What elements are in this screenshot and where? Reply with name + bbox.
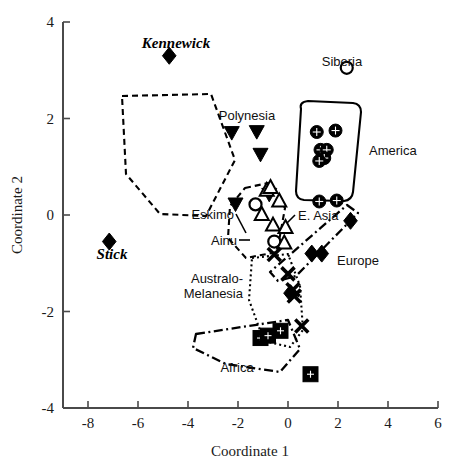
x-tick-label: -6 <box>132 415 145 431</box>
marker-polynesia <box>249 126 264 139</box>
marker-africa <box>303 367 318 382</box>
x-tick-label: 4 <box>384 415 392 431</box>
y-axis-title: Coordinate 2 <box>9 176 25 254</box>
marker-america <box>310 126 323 139</box>
marker-africa <box>273 323 288 338</box>
marker-america <box>313 154 326 167</box>
label-east-asia: E. Asia <box>298 208 339 223</box>
x-tick-label: -4 <box>182 415 195 431</box>
marker-eskimo <box>250 198 262 210</box>
cluster-hulls <box>122 94 361 372</box>
marker-europe <box>315 245 329 262</box>
label-africa: Africa <box>220 360 254 375</box>
label-melanesia: Melanesia <box>184 286 244 301</box>
axis-frame <box>63 22 438 408</box>
y-tick-label: 4 <box>47 14 55 30</box>
marker-america <box>313 195 326 208</box>
y-tick-label: -4 <box>42 400 55 416</box>
x-tick-label: 6 <box>434 415 442 431</box>
marker-polynesia <box>253 148 268 162</box>
marker-america <box>329 124 342 137</box>
marker-america <box>330 194 343 207</box>
label-polynesia: Polynesia <box>219 108 276 123</box>
label-eskimo: Eskimo <box>191 207 234 222</box>
label-australo: Australo- <box>191 271 243 286</box>
y-tick-label: 0 <box>47 207 55 223</box>
plot-canvas: -8-6-4-20246 -4-2024 Kennewick Stick Sib… <box>0 0 466 470</box>
leader-eskimo <box>236 214 246 233</box>
label-siberia: Siberia <box>322 54 363 69</box>
label-stick: Stick <box>97 246 128 262</box>
x-tick-label: 0 <box>284 415 292 431</box>
label-europe: Europe <box>337 253 379 268</box>
x-axis-title: Coordinate 1 <box>211 443 289 459</box>
x-tick-label: -8 <box>82 415 95 431</box>
marker-australo-melanesia <box>268 248 281 261</box>
y-tick-label: -2 <box>42 304 55 320</box>
x-tick-label: -2 <box>232 415 245 431</box>
y-axis-ticks: -4-2024 <box>42 14 71 416</box>
label-ainu: Ainu <box>211 233 237 248</box>
y-tick-label: 2 <box>47 111 55 127</box>
x-tick-label: 2 <box>334 415 342 431</box>
label-kennewick: Kennewick <box>141 35 211 51</box>
scatter-plot-figure: -8-6-4-20246 -4-2024 Kennewick Stick Sib… <box>0 0 466 470</box>
label-america: America <box>369 143 417 158</box>
x-axis-ticks: -8-6-4-20246 <box>82 401 443 431</box>
